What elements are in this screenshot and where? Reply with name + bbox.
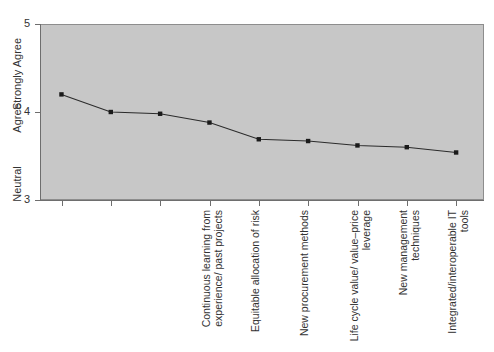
y-axis-text-label: Neutral — [11, 139, 23, 229]
data-point — [158, 112, 162, 116]
y-tick-mark — [35, 200, 40, 201]
data-point — [207, 120, 211, 124]
x-tick-mark — [259, 201, 260, 206]
y-tick-mark — [35, 112, 40, 113]
x-tick-mark — [210, 201, 211, 206]
x-axis-category-label: New procurement methods — [298, 210, 310, 342]
data-point — [257, 137, 261, 141]
data-point — [59, 92, 63, 96]
x-axis-category-label: New management techniques — [397, 210, 421, 342]
series-markers — [59, 92, 458, 154]
data-point — [109, 110, 113, 114]
x-tick-mark — [456, 201, 457, 206]
x-tick-mark — [111, 201, 112, 206]
x-tick-mark — [358, 201, 359, 206]
x-axis-category-label: Integrated/interoperable IT tools — [446, 210, 470, 342]
x-tick-mark — [62, 201, 63, 206]
x-tick-mark — [160, 201, 161, 206]
data-point — [454, 150, 458, 154]
series-layer — [40, 24, 484, 200]
y-axis-line — [40, 24, 41, 201]
data-point — [355, 143, 359, 147]
x-tick-mark — [308, 201, 309, 206]
x-axis-category-label: Equitable allocation of risk — [249, 210, 261, 342]
series-line — [61, 94, 456, 152]
x-axis-category-label: Life cycle value/ value–price leverage — [348, 210, 372, 342]
x-axis-line — [40, 200, 484, 201]
data-point — [306, 139, 310, 143]
line-chart: 543 Strongly AgreeAgreeNeutral Continuou… — [0, 0, 494, 352]
x-tick-mark — [407, 201, 408, 206]
y-tick-mark — [35, 24, 40, 25]
y-tick-label: 5 — [16, 18, 30, 29]
x-axis-category-label: Continuous learning from experience/ pas… — [200, 210, 224, 342]
data-point — [405, 145, 409, 149]
